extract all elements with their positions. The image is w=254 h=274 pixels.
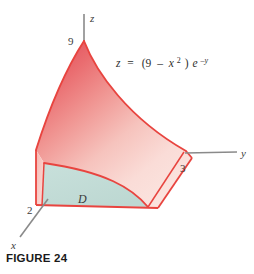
z-tick-label-9: 9 — [68, 35, 74, 47]
region-D-label: D — [77, 192, 87, 206]
equation-minus: – — [156, 57, 163, 69]
y-tick-label-3: 3 — [180, 162, 186, 174]
x-tick-label-2: 2 — [27, 204, 33, 216]
equation-e-var: e — [192, 57, 197, 69]
y-axis-line — [185, 152, 237, 153]
z-axis-label: z — [89, 12, 95, 24]
equation-equals: = — [127, 57, 134, 69]
equation-e-exponent: –y — [199, 56, 208, 65]
x-axis-line — [20, 199, 48, 237]
x-axis-label: x — [10, 239, 16, 251]
y-axis-label: y — [240, 147, 246, 159]
figure-container: z y x 9 3 2 D z = (9 – x 2 ) e –y FIGURE… — [0, 0, 254, 274]
equation-lhs: z — [115, 57, 121, 69]
equation-close-paren: ) — [185, 57, 189, 70]
surface-equation: z = (9 – x 2 ) e –y — [115, 53, 208, 70]
equation-open-paren: (9 — [142, 57, 152, 70]
figure-3d-surface-plot: z y x 9 3 2 D z = (9 – x 2 ) e –y — [0, 0, 254, 274]
figure-caption: FIGURE 24 — [6, 252, 67, 264]
svg-text:z = (9: z = (9 – x 2 ) e –y — [115, 53, 208, 70]
equation-x-exponent: 2 — [177, 56, 181, 65]
equation-x-var: x — [168, 57, 175, 69]
